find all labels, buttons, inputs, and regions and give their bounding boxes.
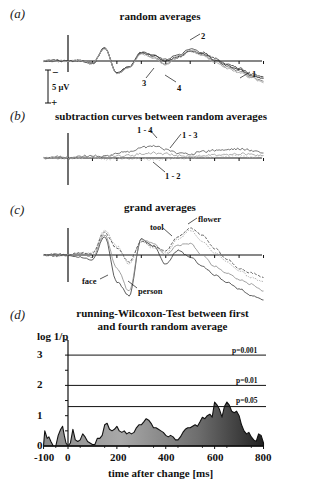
pointer-a-4 xyxy=(165,75,176,82)
ytick-1: 1 xyxy=(37,409,43,421)
pointer-b-1-2 xyxy=(153,162,165,172)
xtick-600: 600 xyxy=(207,451,224,463)
annot-b-1-2: 1 - 2 xyxy=(165,171,181,181)
annot-b-1-4: 1 - 4 xyxy=(137,125,153,135)
xtick-0: 0 xyxy=(65,451,71,463)
series-a-1 xyxy=(44,48,264,78)
scale-bar-label: 5 µV xyxy=(52,82,69,92)
pointer-a-3 xyxy=(146,68,154,78)
annot-c-flower: flower xyxy=(198,214,221,224)
series-a-2 xyxy=(44,48,264,77)
pointer-b-1-3 xyxy=(170,134,181,148)
threshold-label-001: p=0.001 xyxy=(232,346,257,355)
ytick-3: 3 xyxy=(37,348,43,360)
scale-minus: − xyxy=(52,66,58,78)
series-c-flower xyxy=(44,228,264,278)
series-c-person xyxy=(44,235,264,291)
ytick-2: 2 xyxy=(37,378,43,390)
annot-a-1: 1 xyxy=(252,69,256,79)
xtick-m100: -100 xyxy=(34,451,54,463)
annot-c-tool: tool xyxy=(150,222,164,232)
series-a-4 xyxy=(44,49,264,83)
x-axis-label: time after change [ms] xyxy=(108,467,213,479)
annot-a-4: 4 xyxy=(177,83,181,93)
y-axis-label: log 1/p xyxy=(37,330,68,342)
threshold-label-01: p=0.01 xyxy=(236,376,258,385)
scale-plus: + xyxy=(51,96,57,108)
pointer-a-2 xyxy=(190,34,200,40)
annot-a-3: 3 xyxy=(142,78,146,88)
annot-a-2: 2 xyxy=(201,31,205,41)
pointer-c-tool xyxy=(163,228,172,236)
annot-b-1-3: 1 - 3 xyxy=(182,130,198,140)
xtick-200: 200 xyxy=(110,451,127,463)
ytick-0: 0 xyxy=(37,439,43,451)
annot-c-person: person xyxy=(138,286,163,296)
wilcoxon-area xyxy=(44,402,264,446)
annot-c-face: face xyxy=(82,276,97,286)
pointer-c-face xyxy=(100,275,108,279)
threshold-label-05: p=0.05 xyxy=(236,396,258,405)
xtick-800: 800 xyxy=(255,451,272,463)
xtick-400: 400 xyxy=(158,451,175,463)
pointer-c-flower xyxy=(188,218,197,224)
